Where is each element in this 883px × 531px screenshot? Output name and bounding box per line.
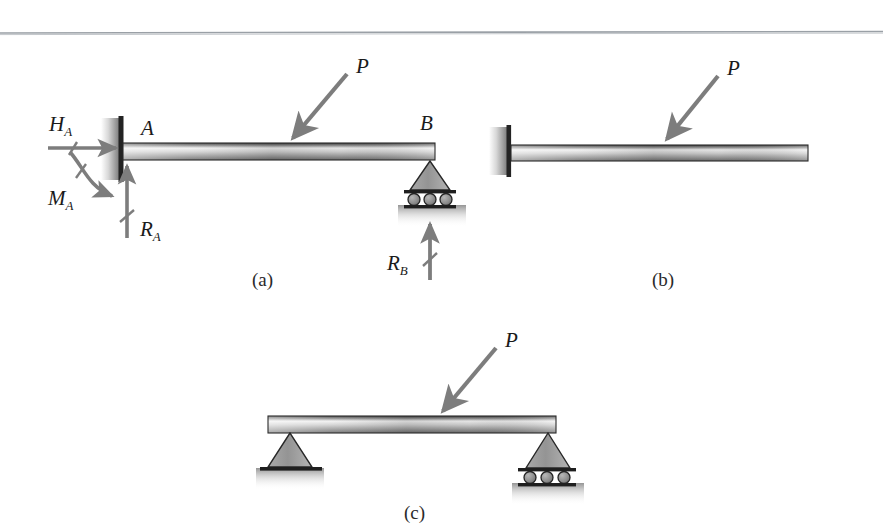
fixed-support-b: [489, 125, 511, 177]
load-label-p-b: P: [727, 58, 740, 79]
reaction-label-ma: MA: [48, 188, 73, 209]
caption-a: (a): [252, 270, 273, 289]
load-arrow-p-c: [443, 348, 496, 411]
panel-a: [48, 74, 466, 280]
caption-b: (b): [652, 270, 674, 289]
beam-diagrams-svg: [0, 0, 883, 531]
panel-c: [256, 348, 584, 505]
reaction-label-rb: RB: [387, 253, 408, 274]
page-rule: [0, 32, 883, 35]
reaction-arrow-rb: [423, 224, 437, 280]
load-arrow-p-a: [293, 74, 347, 138]
load-arrow-p-b: [667, 76, 718, 139]
roller-support-c: [512, 433, 584, 505]
roller-support-b: [398, 161, 466, 227]
reaction-label-ha: HA: [49, 114, 72, 135]
node-label-a: A: [141, 118, 154, 139]
reaction-label-ra: RA: [140, 219, 161, 240]
panel-b: [489, 76, 808, 177]
node-label-b: B: [420, 113, 433, 134]
load-label-p-c: P: [505, 330, 518, 351]
beam-c: [268, 416, 556, 433]
beam-b: [511, 145, 808, 161]
load-label-p-a: P: [356, 56, 369, 77]
caption-c: (c): [404, 503, 425, 522]
pin-support-c: [256, 433, 324, 490]
beam-a: [123, 143, 435, 160]
figure-root: A B P HA MA RA RB (a) P (b) P (c): [0, 0, 883, 531]
